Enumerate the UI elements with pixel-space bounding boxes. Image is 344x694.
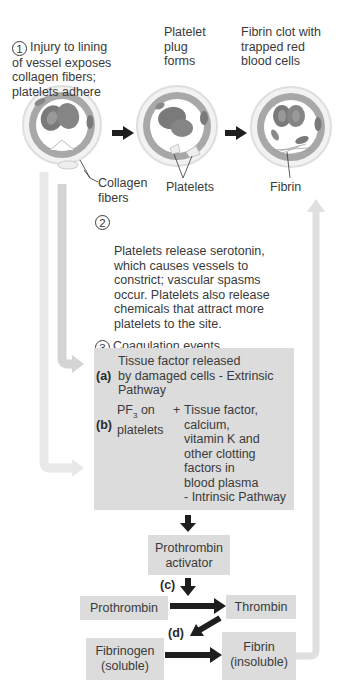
thrombin-box: Thrombin — [226, 595, 296, 619]
pathway-a-label: (a) — [96, 354, 111, 383]
pathway-b-label: (b) — [96, 403, 112, 432]
arrow-c — [180, 578, 196, 596]
step1-label: 1Injury to lining of vessel exposes coll… — [12, 25, 122, 99]
coagulation-events-box: (a) Tissue factor released by damaged ce… — [94, 348, 294, 510]
vessel-fibrin-clot-illustration — [251, 87, 331, 178]
step-number-badge: 2 — [95, 215, 110, 230]
arrow-prothrombin-to-thrombin — [170, 598, 226, 614]
fibrin-insoluble-box: Fibrin (insoluble) — [222, 632, 296, 680]
intrinsic-pathway-text: Tissue factor, calcium, vitamin K and ot… — [184, 403, 294, 505]
pf3-on-platelets: PF3 on platelets — [117, 403, 172, 438]
vessel-injury-illustration — [23, 86, 101, 182]
collagen-fibers-label: Collagen fibers — [98, 176, 168, 205]
extrinsic-pathway-text: Tissue factor released by damaged cells … — [118, 354, 294, 398]
prothrombin-box: Prothrombin — [80, 596, 168, 620]
arrow-fibrinogen-to-fibrin — [165, 647, 222, 663]
step1b-label: Platelet plug forms — [164, 25, 234, 69]
step-d-label: (d) — [168, 626, 184, 641]
plus-sign: + — [173, 403, 180, 418]
arrow-d — [190, 618, 220, 636]
arrow-injury-to-plug — [112, 126, 134, 140]
prothrombin-activator-box: Prothrombin activator — [148, 535, 230, 575]
fibrinogen-box: Fibrinogen (soluble) — [86, 638, 164, 680]
arrow-plug-to-clot — [225, 126, 247, 140]
return-arrow-to-clot — [296, 199, 325, 656]
step-c-label: (c) — [160, 578, 175, 593]
fibrin-label: Fibrin — [270, 180, 301, 195]
grey-arrow-to-a — [62, 184, 84, 373]
platelets-label: Platelets — [166, 180, 214, 195]
step-number-badge: 1 — [12, 41, 27, 56]
arrow-to-prothrombin-activator — [180, 515, 196, 532]
step2-text: Platelets release serotonin, which cause… — [114, 244, 295, 331]
vessel-platelet-plug-illustration — [137, 86, 217, 178]
step1c-label: Fibrin clot with trapped red blood cells — [241, 25, 341, 69]
